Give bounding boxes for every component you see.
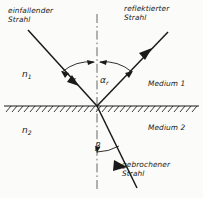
angle-arc-reflection-arrowhead-normal [99, 60, 107, 65]
incident-ray-label-line1: einfallender [8, 6, 53, 15]
reflected-ray-label: reflektierterStrahl [124, 4, 169, 22]
reflected-ray [97, 32, 168, 106]
incident-ray-label-line2: Strahl [8, 15, 31, 24]
angle-reflection-subscript: r [106, 79, 109, 86]
incident-ray-label: einfallenderStrahl [8, 6, 53, 24]
diagram-canvas [0, 0, 203, 198]
angle-reflection-label: αr [100, 76, 109, 87]
refracted-ray-label: gebrochenerStrahl [122, 160, 170, 178]
reflected-ray-label-line1: reflektierter [124, 4, 169, 13]
medium-upper-label: Medium 1 [148, 79, 185, 88]
refractive-index-lower-label: n2 [22, 126, 32, 137]
refractive-index-upper-label: n1 [22, 70, 32, 81]
optics-refraction-diagram: einfallenderStrahl reflektierterStrahl g… [0, 0, 203, 198]
refractive-index-upper-subscript: 1 [28, 73, 32, 80]
angle-refraction-label: β [95, 142, 101, 151]
refracted-ray-label-line1: gebrochener [122, 160, 170, 169]
reflected-ray-arrowhead [139, 48, 152, 60]
reflected-ray-label-line2: Strahl [124, 13, 147, 22]
refracted-ray-label-line2: Strahl [122, 169, 145, 178]
medium-lower-label: Medium 2 [148, 123, 185, 132]
angle-incidence-label: α [70, 76, 76, 85]
incident-ray [28, 30, 97, 106]
interface-hatching [6, 106, 197, 112]
angle-arc-incidence-arrowhead-normal [87, 60, 95, 65]
refractive-index-lower-subscript: 2 [28, 129, 32, 136]
